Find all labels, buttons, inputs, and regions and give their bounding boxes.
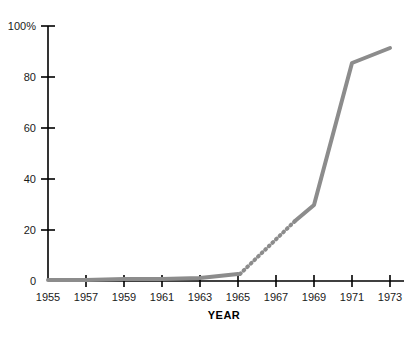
x-tick-label-1969: 1969: [302, 292, 326, 303]
x-tick-label-1955: 1955: [36, 292, 60, 303]
x-tick-label-1965: 1965: [226, 292, 250, 303]
x-axis-title: YEAR: [208, 309, 241, 321]
y-tick-label-0: 0: [0, 276, 36, 287]
x-tick-label-1959: 1959: [112, 292, 136, 303]
x-tick-label-1973: 1973: [378, 292, 402, 303]
series-line-solid-late: [295, 48, 390, 221]
chart-plot-area: [0, 0, 420, 339]
y-tick-label-100: 100%: [0, 21, 36, 32]
series-line-solid-early: [48, 274, 238, 280]
x-tick-label-1961: 1961: [150, 292, 174, 303]
x-tick-label-1971: 1971: [340, 292, 364, 303]
y-tick-label-40: 40: [0, 174, 36, 185]
series-line-dotted-projection: [240, 221, 295, 274]
x-tick-label-1963: 1963: [188, 292, 212, 303]
y-tick-label-80: 80: [0, 72, 36, 83]
x-tick-label-1967: 1967: [264, 292, 288, 303]
y-tick-label-60: 60: [0, 123, 36, 134]
chart-container: 100% 80 60 40 20 0 1955 1957 1959 1961 1…: [0, 0, 420, 339]
y-tick-label-20: 20: [0, 225, 36, 236]
x-tick-label-1957: 1957: [74, 292, 98, 303]
